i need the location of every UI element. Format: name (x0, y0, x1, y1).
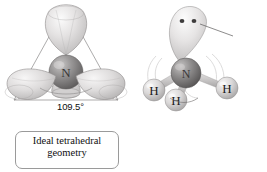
central-atom-symbol: N (61, 65, 71, 80)
central-atom-symbol: N (182, 67, 191, 81)
panel-actual-molecular: N H H H Lone pair 107° (134, 0, 267, 172)
orbital-lobe-right (76, 69, 127, 100)
caption-line-2: geometry (16, 147, 118, 159)
hydrogen-atom-left: H (143, 79, 165, 101)
hydrogen-atom-right: H (216, 77, 238, 99)
lone-pair-electron-dot-1 (180, 19, 185, 23)
orbital-lobe-top (45, 5, 86, 55)
central-atom-nitrogen: N (171, 58, 201, 88)
lone-pair-electron-dot-2 (192, 19, 197, 23)
orbital-lobe-left (5, 69, 56, 100)
bond-angle-label-ideal: 109.5° (57, 101, 84, 112)
lone-pair-lobe (169, 7, 206, 63)
hydrogen-symbol-left: H (149, 83, 158, 98)
hydrogen-symbol-right: H (222, 81, 231, 96)
central-atom-nitrogen: N (49, 55, 83, 89)
vsepr-comparison-figure: N 109.5° Ideal tetrahedral geometry (0, 0, 267, 172)
hydrogen-atom-front: H (165, 89, 187, 111)
hydrogen-symbol-front: H (171, 93, 180, 108)
panel-ideal-tetrahedral: N 109.5° Ideal tetrahedral geometry (0, 0, 133, 172)
ammonia-molecule-illustration: N H H H (134, 0, 267, 126)
caption-ideal-tetrahedral: Ideal tetrahedral geometry (15, 131, 119, 169)
caption-line-1: Ideal tetrahedral (16, 135, 118, 147)
